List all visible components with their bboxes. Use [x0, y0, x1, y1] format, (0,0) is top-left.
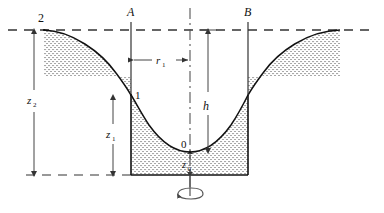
rotating-vessel-diagram: 2 1 0 A B r 1 h z 2 z 1 z 0: [0, 0, 384, 213]
label-z2-main: z: [26, 94, 32, 106]
label-r1: r 1: [156, 54, 166, 69]
label-z2-sub: 2: [33, 101, 37, 109]
dimension-h: [199, 28, 217, 154]
point-marker-0: [189, 151, 191, 153]
label-z2: z 2: [26, 94, 37, 109]
label-r1-sub: 1: [162, 61, 166, 69]
label-z1-main: z: [105, 128, 111, 140]
label-line-A: A: [126, 5, 135, 19]
point-marker-2: [43, 29, 45, 31]
liquid-region-left: [44, 30, 131, 95]
figure-container: 2 1 0 A B r 1 h z 2 z 1 z 0: [0, 0, 384, 213]
z1-arrow-top: [110, 94, 116, 100]
label-z0-main: z: [181, 159, 186, 170]
liquid-region-right: [248, 30, 340, 95]
label-point-0: 0: [181, 138, 187, 150]
label-h: h: [203, 99, 209, 113]
label-z1-sub: 1: [112, 135, 116, 143]
label-line-B: B: [244, 5, 252, 19]
label-point-1: 1: [135, 89, 141, 101]
label-point-2: 2: [38, 11, 44, 25]
point-marker-1: [130, 94, 132, 96]
z2-arrow-top: [31, 28, 37, 34]
label-z1: z 1: [105, 128, 116, 143]
label-r1-main: r: [156, 54, 161, 66]
rotation-symbol: [178, 175, 203, 199]
z2-arrow-bottom: [31, 171, 37, 177]
z1-arrow-bottom: [110, 171, 116, 177]
h-arrow-top: [205, 28, 211, 34]
label-z0-sub: 0: [188, 165, 192, 173]
